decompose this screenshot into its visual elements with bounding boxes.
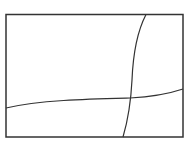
frame-rectangle (6, 15, 183, 138)
diagram-canvas (0, 0, 185, 143)
horizontal-curve (6, 89, 183, 108)
vertical-curve (123, 15, 146, 138)
diagram-svg (0, 0, 185, 143)
